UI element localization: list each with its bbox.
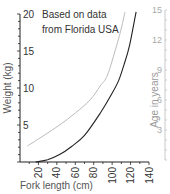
y-tick-label: 10 xyxy=(23,83,35,94)
y2-tick-label: 12 xyxy=(152,35,162,45)
y-axis-title: Weight (kg) xyxy=(2,63,13,114)
chart: 5101520 3691215 20406080100120140 Weight… xyxy=(0,0,170,194)
annotation-line-1: Based on data xyxy=(42,9,107,20)
x-tick-label: 140 xyxy=(144,167,155,184)
annotation-line-2: from Florida USA xyxy=(42,24,119,35)
x-tick-label: 120 xyxy=(125,167,136,184)
x-tick-label: 60 xyxy=(70,167,81,179)
x-tick-label: 20 xyxy=(33,167,44,179)
x-tick-label: 80 xyxy=(88,167,99,179)
y2-axis-title: Age in years xyxy=(149,72,160,128)
y-tick-label: 20 xyxy=(23,9,35,20)
left-y-axis: 5101520 xyxy=(17,9,35,162)
x-tick-label: 100 xyxy=(107,167,118,184)
y-tick-label: 5 xyxy=(23,120,29,131)
y2-tick-label: 15 xyxy=(152,5,162,15)
x-axis-title: Fork length (cm) xyxy=(20,180,93,191)
y-tick-label: 15 xyxy=(23,46,35,57)
x-tick-label: 40 xyxy=(51,167,62,179)
